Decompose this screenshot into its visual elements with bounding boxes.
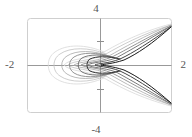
axis-label-top: 4 bbox=[0, 3, 192, 14]
axis-label-left: -2 bbox=[5, 59, 14, 70]
contour-plot-figure: 4 -4 -2 2 bbox=[0, 0, 192, 137]
axis-label-bottom: -4 bbox=[0, 124, 192, 135]
axis-label-right: 2 bbox=[181, 59, 187, 70]
plot-canvas bbox=[0, 0, 192, 137]
